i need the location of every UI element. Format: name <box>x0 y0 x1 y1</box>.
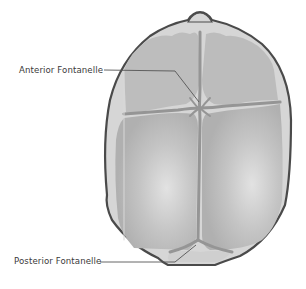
skull-illustration <box>0 0 306 289</box>
posterior-fontanelle-label: Posterior Fontanelle <box>14 256 101 266</box>
anterior-fontanelle-label: Anterior Fontanelle <box>19 65 103 75</box>
skull-diagram: Anterior Fontanelle Posterior Fontanelle <box>0 0 306 289</box>
